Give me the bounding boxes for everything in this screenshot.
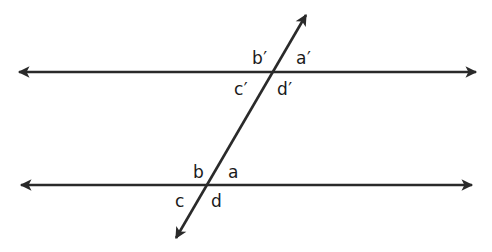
- angle-label-d-prime: d′: [277, 81, 293, 98]
- angle-label-b-prime: b′: [252, 50, 268, 67]
- angle-label-c-prime: c′: [234, 81, 248, 98]
- angle-label-b: b: [193, 164, 204, 181]
- angle-label-d: d: [211, 193, 222, 210]
- lines-svg: [0, 0, 492, 252]
- diagram-canvas: b′ a′ c′ d′ b a c d: [0, 0, 492, 252]
- angle-label-a-prime: a′: [296, 50, 311, 67]
- angle-label-c: c: [175, 193, 185, 210]
- angle-label-a: a: [228, 164, 239, 181]
- transversal-line: [176, 15, 306, 238]
